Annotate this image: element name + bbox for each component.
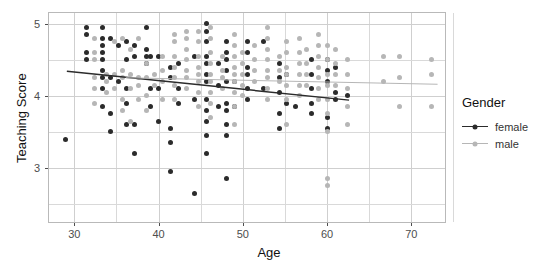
plot-panel — [48, 12, 446, 223]
x-tick-label: 50 — [237, 228, 249, 240]
legend-item-female[interactable]: female — [462, 118, 528, 135]
legend-key-icon — [462, 138, 488, 149]
regression-lines-layer — [49, 13, 447, 224]
legend-item-male[interactable]: male — [462, 135, 528, 152]
legend-item-label: male — [495, 138, 519, 150]
x-tick-mark — [411, 223, 412, 226]
legend: Gender femalemale — [462, 95, 528, 152]
regression-line-female — [67, 71, 349, 100]
legend-items: femalemale — [462, 118, 528, 152]
y-tick-mark — [45, 24, 48, 25]
x-tick-label: 70 — [405, 228, 417, 240]
x-tick-label: 60 — [321, 228, 333, 240]
x-tick-label: 40 — [152, 228, 164, 240]
x-tick-mark — [327, 223, 328, 226]
x-tick-mark — [74, 223, 75, 226]
legend-title: Gender — [462, 95, 528, 110]
x-axis-label: Age — [0, 245, 538, 260]
y-tick-label: 4 — [0, 90, 40, 102]
y-tick-label: 5 — [0, 18, 40, 30]
legend-key-icon — [462, 121, 488, 132]
scatter-plot-figure: Teaching Score 3040506070 345 Age Gender… — [0, 0, 538, 274]
y-tick-mark — [45, 168, 48, 169]
y-tick-mark — [45, 96, 48, 97]
regression-line-male — [126, 78, 438, 84]
y-axis-label: Teaching Score — [14, 73, 29, 163]
gridline-vertical — [453, 13, 454, 222]
x-tick-mark — [243, 223, 244, 226]
x-tick-mark — [159, 223, 160, 226]
legend-item-label: female — [495, 121, 528, 133]
y-tick-label: 3 — [0, 162, 40, 174]
x-tick-label: 30 — [68, 228, 80, 240]
